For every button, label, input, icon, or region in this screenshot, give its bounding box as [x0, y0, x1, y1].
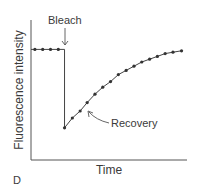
recovery-annotation: Recovery: [111, 117, 158, 129]
y-axis-label: Fluorescence intensity: [12, 30, 26, 149]
data-point-recovery: [148, 58, 151, 61]
x-axis-label: Time: [96, 163, 123, 177]
bleach-annotation: Bleach: [48, 14, 82, 26]
data-point-recovery: [63, 126, 66, 129]
data-point-recovery: [79, 109, 82, 112]
data-point-recovery: [86, 101, 89, 104]
data-point-recovery: [125, 69, 128, 72]
data-point-recovery: [132, 65, 135, 68]
data-point-recovery: [109, 80, 112, 83]
data-point-recovery: [140, 60, 143, 63]
data-point-recovery: [156, 55, 159, 58]
data-point-recovery: [180, 49, 183, 52]
frap-chart: Fluorescence intensity Time D Bleach Rec…: [0, 0, 198, 188]
panel-label: D: [13, 174, 21, 186]
data-point-recovery: [171, 51, 174, 54]
recovery-arrow: [88, 111, 109, 123]
data-point-pre-bleach: [33, 48, 36, 51]
data-point-recovery: [101, 86, 104, 89]
data-point-pre-bleach: [41, 48, 44, 51]
bleach-arrow: [62, 28, 68, 45]
data-point-recovery: [93, 93, 96, 96]
data-point-pre-bleach: [49, 48, 52, 51]
data-point-pre-bleach: [57, 48, 60, 51]
data-point-recovery: [71, 116, 74, 119]
data-point-recovery: [117, 73, 120, 76]
data-point-recovery: [164, 52, 167, 55]
